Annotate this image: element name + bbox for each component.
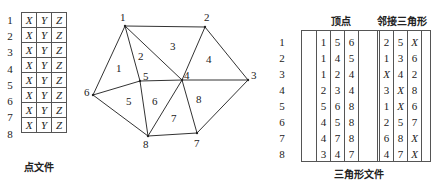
adjacent-cell: 4	[380, 147, 393, 161]
vertex-cell: 4	[317, 131, 330, 145]
vertex-cell: 8	[345, 131, 358, 145]
adjacent-cell: 2	[380, 115, 393, 129]
column-divider	[421, 30, 422, 162]
adjacent-cell: X	[394, 99, 407, 113]
vertex-cell: 5	[331, 115, 344, 129]
adjacent-cell: 1	[380, 51, 393, 65]
triangle-label: 2	[138, 50, 144, 62]
vertex-cell: 5	[317, 99, 330, 113]
triangle-label: 4	[206, 53, 212, 65]
triangle-label: 3	[170, 40, 176, 52]
node-label: 5	[143, 70, 149, 82]
adjacent-cell: 4	[394, 67, 407, 81]
header-vertices: 顶点	[331, 13, 351, 28]
vertex-cell: 4	[331, 51, 344, 65]
row-number: 1	[277, 35, 287, 49]
vertex-cell: 2	[331, 67, 344, 81]
row-number: 5	[277, 99, 287, 113]
adjacent-cell: 6	[408, 99, 421, 113]
vertex-cell: 3	[317, 147, 330, 161]
row-number: 8	[277, 147, 287, 161]
triangle-label: 5	[126, 95, 132, 107]
adjacent-cell: 2	[408, 67, 421, 81]
triangle-file-caption: 三角形文件	[334, 166, 384, 181]
row-number: 4	[277, 83, 287, 97]
node-label: 8	[143, 138, 149, 150]
adjacent-cell: 6	[380, 131, 393, 145]
node-label: 2	[204, 11, 210, 23]
triangle-label: 1	[116, 62, 122, 74]
adjacent-cell: 8	[394, 131, 407, 145]
vertex-cell: 4	[317, 115, 330, 129]
node-label: 7	[194, 137, 200, 149]
triangle-label: 6	[152, 95, 158, 107]
adjacent-cell: 7	[408, 115, 421, 129]
column-divider	[377, 30, 378, 162]
header-adjacent-triangles: 邻接三角形	[377, 13, 427, 28]
vertex-cell: 8	[345, 115, 358, 129]
adjacent-cell: X	[380, 67, 393, 81]
vertex-cell: 7	[345, 147, 358, 161]
triangle-label: 8	[196, 93, 202, 105]
adjacent-cell: 7	[394, 147, 407, 161]
row-number: 6	[277, 115, 287, 129]
vertex-cell: 6	[331, 99, 344, 113]
vertex-cell: 8	[345, 99, 358, 113]
node-label: 3	[251, 69, 257, 81]
vertex-cell: 1	[317, 35, 330, 49]
adjacent-cell: X	[408, 131, 421, 145]
row-number: 7	[277, 131, 287, 145]
adjacent-cell: 5	[394, 35, 407, 49]
node-label: 4	[184, 69, 190, 81]
column-divider	[358, 30, 359, 162]
adjacent-cell: X	[408, 35, 421, 49]
vertex-cell: 3	[331, 83, 344, 97]
adjacent-cell: 1	[380, 99, 393, 113]
vertex-cell: 2	[317, 83, 330, 97]
adjacent-cell: 3	[380, 83, 393, 97]
row-number: 2	[277, 51, 287, 65]
vertex-cell: 6	[345, 35, 358, 49]
vertex-cell: 7	[331, 131, 344, 145]
vertex-cell: 5	[331, 35, 344, 49]
row-number: 3	[277, 67, 287, 81]
triangle-labels: 1 2 3 4 5 6 7 8	[116, 40, 212, 124]
adjacent-cell: X	[394, 83, 407, 97]
triangle-label: 7	[171, 112, 177, 124]
vertex-cell: 1	[317, 51, 330, 65]
vertex-cell: 1	[317, 67, 330, 81]
adjacent-cell: 5	[394, 115, 407, 129]
node-label: 1	[120, 11, 126, 23]
vertex-cell: 5	[345, 51, 358, 65]
node-label: 6	[84, 86, 90, 98]
vertex-cell: 4	[345, 67, 358, 81]
adjacent-cell: 8	[408, 83, 421, 97]
vertex-cell: 4	[345, 83, 358, 97]
adjacent-cell: 6	[408, 51, 421, 65]
vertex-cell: 4	[331, 147, 344, 161]
adjacent-cell: 2	[380, 35, 393, 49]
adjacent-cell: X	[408, 147, 421, 161]
adjacent-cell: 3	[394, 51, 407, 65]
